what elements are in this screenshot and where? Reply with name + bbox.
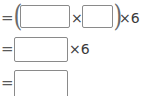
times-six-label-row-1: ×6 xyxy=(119,11,140,25)
times-six-label-row-2: ×6 xyxy=(69,42,90,56)
answer-box-row-1-first[interactable] xyxy=(20,5,70,28)
multiplication-operator-row-1: × xyxy=(71,11,83,25)
equals-sign-row-2: = xyxy=(1,42,14,57)
answer-box-row-3[interactable] xyxy=(14,70,68,96)
equals-sign-row-1: = xyxy=(1,11,14,26)
equals-sign-row-3: = xyxy=(1,76,14,91)
answer-box-row-2[interactable] xyxy=(14,37,68,62)
answer-box-row-1-second[interactable] xyxy=(82,5,113,28)
math-worksheet: = ( × ) ×6 = ×6 = xyxy=(0,0,141,96)
